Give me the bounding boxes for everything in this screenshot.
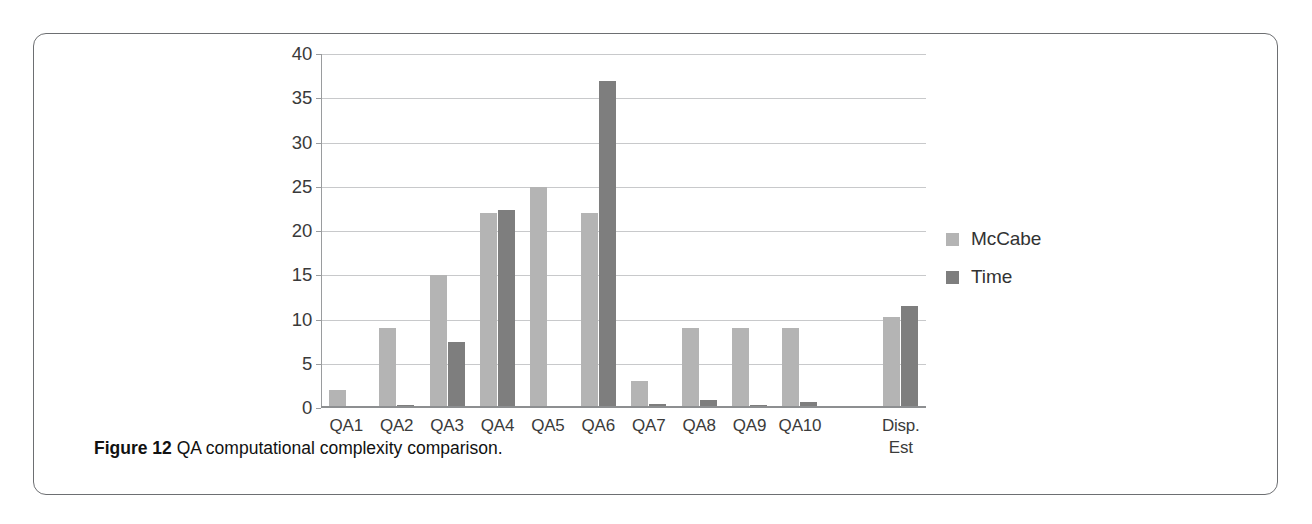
figure-root: 0510152025303540 QA1QA2QA3QA4QA5QA6QA7QA… — [0, 0, 1312, 524]
y-tick-mark — [316, 408, 321, 409]
bar-mccabe — [379, 328, 396, 408]
category-slot: QA10 — [775, 54, 825, 408]
x-tick-label: QA2 — [380, 415, 413, 437]
legend-item-label: Time — [971, 266, 1012, 288]
figure-frame: 0510152025303540 QA1QA2QA3QA4QA5QA6QA7QA… — [33, 33, 1278, 495]
y-tick-label: 0 — [302, 397, 312, 419]
bar-time — [599, 81, 616, 408]
plot-box: 0510152025303540 QA1QA2QA3QA4QA5QA6QA7QA… — [321, 54, 926, 408]
y-tick-label: 35 — [292, 87, 312, 109]
bar-mccabe — [883, 317, 900, 408]
bar-mccabe — [480, 213, 497, 408]
category-slot: QA5 — [523, 54, 573, 408]
bar-mccabe — [530, 187, 547, 408]
legend-item-label: McCabe — [971, 228, 1041, 250]
y-tick-label: 10 — [292, 309, 312, 331]
category-slot: QA9 — [724, 54, 774, 408]
category-slot — [825, 54, 875, 408]
x-tick-label: QA9 — [733, 415, 766, 437]
category-slot: Disp. Est — [876, 54, 926, 408]
category-slot: QA2 — [371, 54, 421, 408]
y-tick-label: 20 — [292, 220, 312, 242]
bar-time — [498, 210, 515, 408]
x-tick-label: QA3 — [430, 415, 463, 437]
category-slot: QA3 — [422, 54, 472, 408]
chart-legend: McCabeTime — [946, 220, 1041, 296]
x-tick-label: QA7 — [632, 415, 665, 437]
figure-caption-label: Figure 12 — [94, 438, 172, 458]
category-slot: QA4 — [472, 54, 522, 408]
bar-mccabe — [732, 328, 749, 408]
legend-item[interactable]: Time — [946, 258, 1041, 296]
x-tick-label: Disp. Est — [882, 415, 920, 459]
category-slot: QA6 — [573, 54, 623, 408]
x-tick-label: QA4 — [481, 415, 514, 437]
x-tick-label: QA6 — [582, 415, 615, 437]
x-tick-label: QA5 — [531, 415, 564, 437]
x-tick-label: QA10 — [779, 415, 822, 437]
category-slot: QA8 — [674, 54, 724, 408]
legend-swatch-mccabe — [946, 233, 959, 246]
bar-mccabe — [782, 328, 799, 408]
y-tick-label: 5 — [302, 353, 312, 375]
figure-caption: Figure 12 QA computational complexity co… — [94, 438, 503, 459]
category-slot: QA1 — [321, 54, 371, 408]
y-tick-label: 15 — [292, 264, 312, 286]
bar-mccabe — [430, 275, 447, 408]
bar-mccabe — [581, 213, 598, 408]
x-tick-label: QA1 — [329, 415, 362, 437]
bars-layer: QA1QA2QA3QA4QA5QA6QA7QA8QA9QA10Disp. Est — [321, 54, 926, 408]
legend-swatch-time — [946, 271, 959, 284]
legend-item[interactable]: McCabe — [946, 220, 1041, 258]
bar-mccabe — [682, 328, 699, 408]
y-tick-label: 25 — [292, 176, 312, 198]
figure-caption-body: QA computational complexity comparison. — [177, 438, 503, 458]
bar-time — [901, 306, 918, 408]
bar-time — [448, 342, 465, 408]
category-slot: QA7 — [624, 54, 674, 408]
chart-area: 0510152025303540 QA1QA2QA3QA4QA5QA6QA7QA… — [34, 34, 1279, 496]
y-tick-label: 40 — [292, 43, 312, 65]
y-tick-label: 30 — [292, 132, 312, 154]
x-axis-line — [321, 406, 926, 408]
x-tick-label: QA8 — [682, 415, 715, 437]
bar-mccabe — [631, 381, 648, 408]
